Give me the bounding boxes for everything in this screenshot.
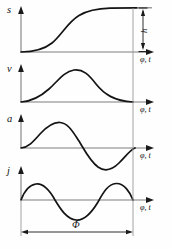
plot-displacement: s h φ, t (7, 4, 154, 64)
acceleration-abscissa-label: φ, t (140, 151, 152, 160)
total-angle-label: Φ (72, 219, 80, 230)
acceleration-y-axis-arrowhead (18, 114, 24, 122)
jerk-abscissa-label: φ, t (140, 203, 152, 212)
total-angle-arrow-left (21, 230, 28, 234)
rise-height-arrow-top (141, 9, 145, 16)
cam-motion-diagram: s h φ, t v φ, t a φ, t j φ, t (0, 0, 172, 250)
jerk-curve (21, 183, 133, 220)
acceleration-curve (21, 122, 135, 169)
plot-jerk: j φ, t (5, 165, 154, 220)
motion-curves-svg: s h φ, t v φ, t a φ, t j φ, t (0, 0, 172, 250)
jerk-y-axis-arrowhead (18, 166, 24, 174)
velocity-axis-label: v (7, 63, 12, 74)
rise-height-arrow-bottom (141, 43, 145, 50)
displacement-abscissa-label: φ, t (140, 55, 152, 64)
total-angle-dimension: Φ (21, 219, 133, 234)
displacement-axis-label: s (7, 4, 11, 15)
velocity-curve (21, 70, 133, 102)
velocity-y-axis-arrowhead (18, 64, 24, 72)
jerk-axis-label: j (5, 165, 10, 176)
displacement-y-axis-arrowhead (18, 6, 24, 14)
acceleration-axis-label: a (7, 113, 12, 124)
displacement-curve (21, 8, 137, 52)
total-angle-arrow-right (126, 230, 133, 234)
velocity-abscissa-label: φ, t (140, 105, 152, 114)
plot-velocity: v φ, t (7, 63, 154, 114)
rise-height-label: h (139, 29, 149, 33)
plot-acceleration: a φ, t (7, 113, 154, 170)
